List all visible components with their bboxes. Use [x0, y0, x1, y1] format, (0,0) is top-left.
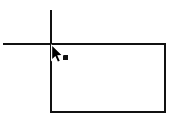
drawing-surface[interactable]	[0, 0, 174, 119]
canvas-background	[0, 0, 174, 119]
drawing-canvas[interactable]	[0, 0, 174, 119]
anchor-point-dot[interactable]	[63, 55, 68, 60]
